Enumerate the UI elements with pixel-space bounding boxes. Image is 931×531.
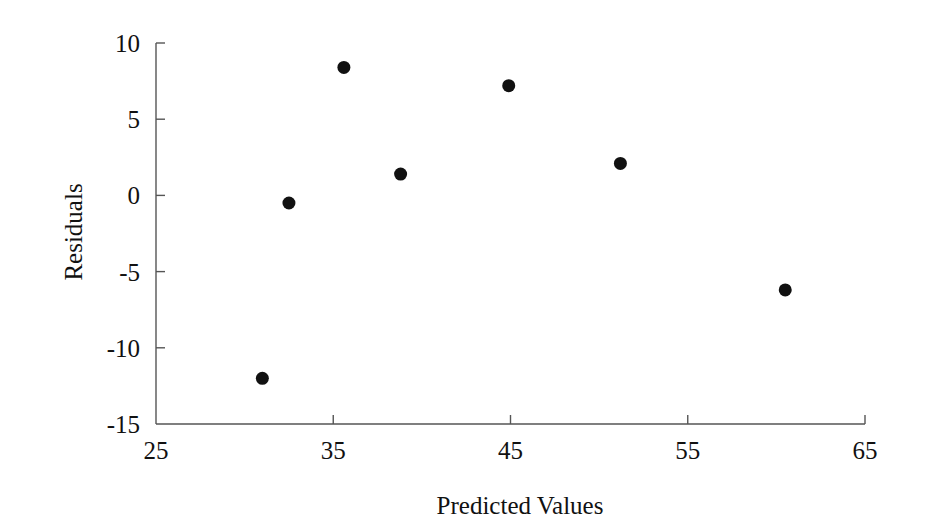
x-tick-label: 35 xyxy=(321,438,346,463)
y-tick-label: 5 xyxy=(128,107,141,132)
data-point xyxy=(614,157,627,170)
y-tick-label: -5 xyxy=(119,259,140,284)
x-tick-label: 55 xyxy=(675,438,700,463)
x-tick-label: 65 xyxy=(853,438,878,463)
axes-lines xyxy=(156,43,865,424)
y-tick-label: 10 xyxy=(115,31,140,56)
y-tick-label: 0 xyxy=(128,183,141,208)
y-tick-label: -10 xyxy=(107,335,140,360)
data-points-group xyxy=(256,61,792,385)
data-point xyxy=(779,283,792,296)
data-point xyxy=(256,372,269,385)
x-tick-label: 25 xyxy=(144,438,169,463)
data-point xyxy=(394,168,407,181)
x-tick-label: 45 xyxy=(498,438,523,463)
x-axis-title: Predicted Values xyxy=(437,492,604,520)
residual-scatter-plot-figure: 1050-5-10-15 2535455565 Predicted Values… xyxy=(0,0,931,531)
data-point xyxy=(502,79,515,92)
data-point xyxy=(282,197,295,210)
data-point xyxy=(337,61,350,74)
axis-tick-marks xyxy=(156,119,688,424)
y-tick-label: -15 xyxy=(107,412,140,437)
y-axis-title: Residuals xyxy=(60,183,88,280)
